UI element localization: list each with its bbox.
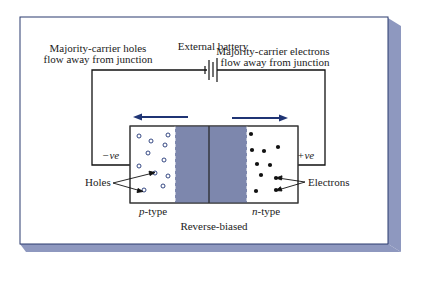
n-type-label: n-type <box>252 205 280 217</box>
pn-block <box>130 126 298 203</box>
depletion-region <box>175 126 247 203</box>
right-caption-line2: flow away from junction <box>220 56 330 68</box>
left-caption-line2: flow away from junction <box>43 53 153 65</box>
positive-terminal-label: +ve <box>297 149 314 161</box>
panel-shadow-right <box>388 18 401 252</box>
panel-shadow-bottom <box>20 244 401 252</box>
negative-terminal-label: −ve <box>102 149 119 161</box>
pn-junction-diagram: Majority-carrier holes flow away from ju… <box>0 0 429 282</box>
bias-label: Reverse-biased <box>180 220 248 232</box>
p-type-label: p-type <box>138 205 167 217</box>
holes-label: Holes <box>85 176 111 188</box>
electrons-label: Electrons <box>308 176 350 188</box>
